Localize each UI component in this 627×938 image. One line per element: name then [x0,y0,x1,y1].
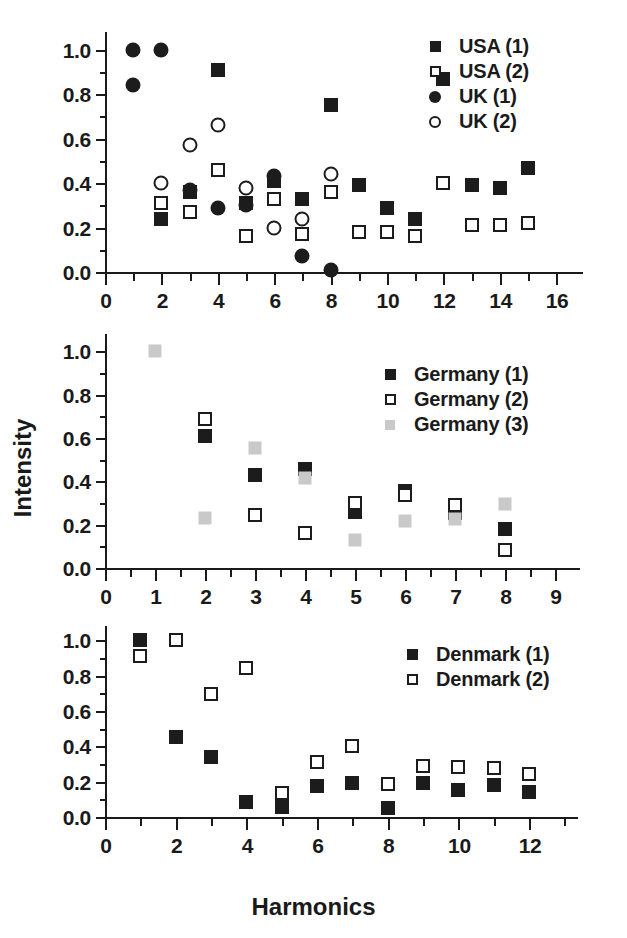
data-point [522,785,536,799]
data-point [133,633,147,647]
x-axis-tick [455,570,457,581]
y-axis-tick [96,94,106,96]
data-point [154,196,168,210]
x-axis-label: Harmonics [0,893,627,921]
x-axis-tick [255,570,257,581]
y-axis-tick-label: 0.2 [23,217,91,241]
circle-filled-icon [429,91,441,103]
legend-label: Denmark (2) [436,668,549,691]
y-axis-tick [96,525,106,527]
x-axis-minor-tick [472,274,474,281]
y-axis-tick-label: 0.2 [23,771,91,795]
data-point [211,63,225,77]
x-axis-tick-label: 14 [489,289,512,313]
legend-label: UK (1) [459,85,517,108]
x-axis-minor-tick [133,274,135,281]
y-axis-minor-tick [100,693,106,695]
x-axis-tick [155,570,157,581]
y-axis-tick [96,228,106,230]
x-axis-tick [555,570,557,581]
y-axis-tick-label: 0.6 [23,700,91,724]
legend-item: Denmark (2) [400,667,549,692]
data-point [323,262,338,277]
legend-panel-3: Denmark (1)Denmark (2) [400,642,549,692]
legend-label: Germany (3) [414,413,529,436]
data-point [198,429,212,443]
y-axis-tick [96,50,106,52]
x-axis-tick-label: 4 [242,834,253,858]
x-axis-minor-tick [480,570,482,577]
y-axis-tick-label: 0.4 [23,735,91,759]
y-axis-tick [96,711,106,713]
x-axis-tick [387,274,389,285]
x-axis-tick [246,819,248,830]
data-point [295,211,310,226]
x-axis-tick [205,570,207,581]
x-axis-minor-tick [246,274,248,281]
y-axis-tick-label: 0.8 [23,83,91,107]
data-point [408,212,422,226]
data-point [295,227,309,241]
data-point [324,98,338,112]
x-axis-minor-tick [230,570,232,577]
square-open-icon [385,394,396,405]
x-axis-tick-label: 12 [519,834,542,858]
data-point [522,767,536,781]
data-point [198,412,212,426]
x-axis-tick [443,274,445,285]
data-point [295,192,309,206]
x-axis-tick-label: 8 [326,289,337,313]
data-point [408,229,422,243]
data-point [324,185,338,199]
data-point [381,777,395,791]
square-open-icon [407,674,418,685]
chart-panel-usa-uk: 0.00.20.40.60.81.00246810121416 USA (1)U… [0,0,627,312]
x-axis-minor-tick [330,570,332,577]
data-point [154,176,169,191]
data-point [149,345,162,358]
data-point [249,441,262,454]
data-point [436,176,450,190]
x-axis-minor-tick [415,274,417,281]
y-axis-tick [96,395,106,397]
legend-item: Germany (2) [378,387,529,412]
x-axis-minor-tick [140,819,142,826]
x-axis-tick [458,819,460,830]
data-point [348,496,362,510]
data-point [211,163,225,177]
x-axis-minor-tick [380,570,382,577]
legend-item: UK (1) [423,84,529,109]
y-axis-minor-tick [100,205,106,207]
data-point [380,225,394,239]
x-axis-tick-label: 10 [377,289,400,313]
x-axis-tick-label: 0 [100,289,111,313]
x-axis-line [105,568,580,570]
x-axis-tick [505,570,507,581]
data-point [498,522,512,536]
y-axis-tick-label: 0.0 [23,261,91,285]
data-point [239,661,253,675]
x-axis-minor-tick [528,274,530,281]
data-point [352,225,366,239]
y-axis-line [105,334,107,570]
data-point [498,543,512,557]
legend-label: Germany (2) [414,388,529,411]
data-point [182,138,197,153]
y-axis-minor-tick [100,161,106,163]
x-axis-tick-label: 0 [100,834,111,858]
data-point [381,801,395,815]
data-point [182,182,197,197]
x-axis-minor-tick [352,819,354,826]
x-axis-minor-tick [359,274,361,281]
y-axis-label: Intensity [9,383,37,553]
x-axis-tick-label: 12 [433,289,456,313]
x-axis-tick-label: 2 [157,289,168,313]
data-point [204,750,218,764]
y-axis-tick [96,438,106,440]
data-point [521,216,535,230]
y-axis-minor-tick [100,250,106,252]
data-point [416,759,430,773]
x-axis-tick-label: 2 [171,834,182,858]
legend-marker-icon [423,66,447,77]
x-axis-line [105,272,583,274]
